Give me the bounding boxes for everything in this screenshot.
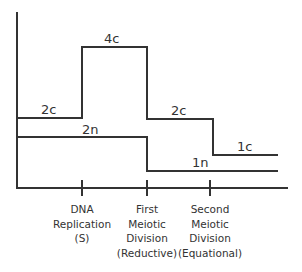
label-1n: 1n <box>192 156 209 169</box>
label-2c-after-meiosis-1: 2c <box>171 104 186 117</box>
label-4c: 4c <box>104 32 119 45</box>
label-1c: 1c <box>237 140 252 153</box>
xlabel-second-meiotic-division: Second Meiotic Division (Equational) <box>170 202 250 260</box>
label-2n: 2n <box>82 123 99 136</box>
label-2c-initial: 2c <box>41 103 56 116</box>
